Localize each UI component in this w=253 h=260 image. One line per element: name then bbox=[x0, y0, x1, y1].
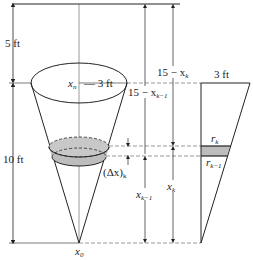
label-15-xk: 15 − xk bbox=[157, 66, 189, 80]
label-x0: x0 bbox=[74, 245, 84, 259]
label-delta-x: (Δx)k bbox=[103, 166, 127, 180]
label-xn: xn bbox=[67, 77, 77, 91]
cross-section-band bbox=[201, 146, 230, 156]
label-10ft: 10 ft bbox=[3, 153, 23, 165]
label-3ft-radius: — 3 ft bbox=[83, 77, 113, 89]
label-5ft: 5 ft bbox=[5, 37, 20, 49]
label-rk: rk bbox=[211, 132, 219, 146]
label-3ft-cross: 3 ft bbox=[214, 68, 229, 80]
label-rk1: rk−1 bbox=[206, 156, 222, 170]
cone-tank-diagram: 5 ft 10 ft xn — 3 ft (Δx)k 15 − xk 15 − … bbox=[0, 0, 253, 260]
